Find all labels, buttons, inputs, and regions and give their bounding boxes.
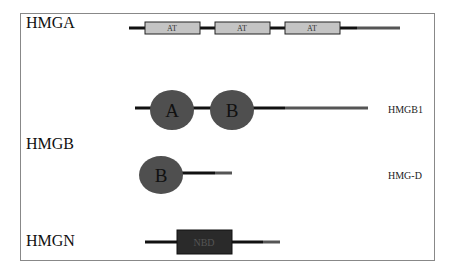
svg-text:NBD: NBD bbox=[193, 237, 214, 248]
hmgb1-protein: A B bbox=[135, 90, 368, 130]
hmgn-protein: NBD bbox=[145, 230, 280, 254]
hmgd-protein: B bbox=[139, 156, 232, 194]
svg-text:B: B bbox=[226, 100, 239, 121]
hmga-protein: AT AT AT bbox=[129, 22, 400, 34]
svg-text:AT: AT bbox=[237, 24, 247, 33]
svg-text:B: B bbox=[155, 165, 168, 186]
svg-text:AT: AT bbox=[167, 24, 177, 33]
domain-diagram: AT AT AT A B B NBD bbox=[0, 0, 452, 275]
svg-text:AT: AT bbox=[307, 24, 317, 33]
svg-text:A: A bbox=[165, 100, 179, 121]
